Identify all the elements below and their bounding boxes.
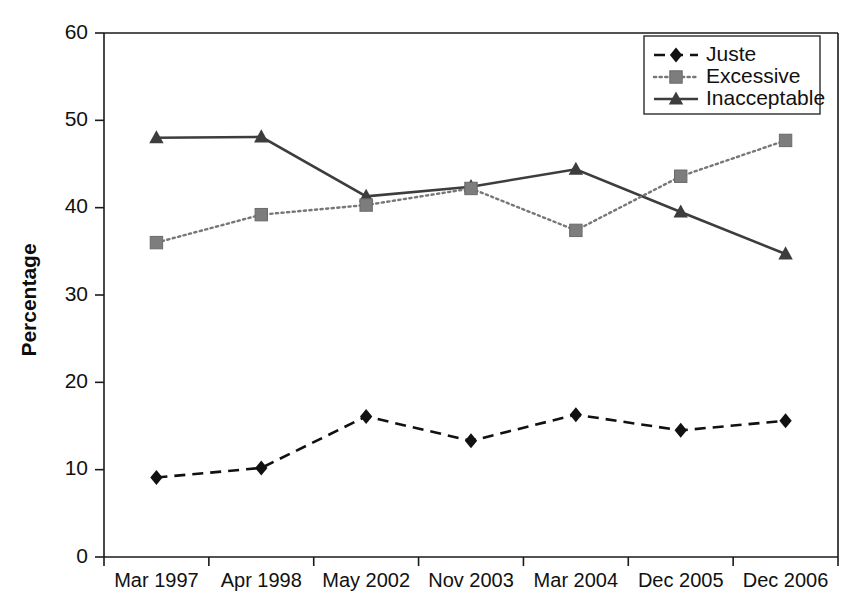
x-tick-label: May 2002 <box>322 569 410 591</box>
x-tick-label: Mar 2004 <box>534 569 619 591</box>
y-tick-label: 60 <box>65 20 88 43</box>
data-point-excessive <box>150 236 162 248</box>
x-tick-label: Dec 2006 <box>743 569 829 591</box>
chart-container: 0102030405060 Mar 1997Apr 1998May 2002No… <box>0 0 859 613</box>
y-tick-label: 0 <box>76 544 88 567</box>
legend-label-inacceptable: Inacceptable <box>706 86 825 109</box>
y-axis-title: Percentage <box>17 243 40 356</box>
data-point-excessive <box>255 208 267 220</box>
data-point-excessive <box>465 182 477 194</box>
line-chart: 0102030405060 Mar 1997Apr 1998May 2002No… <box>0 0 859 613</box>
chart-legend: JusteExcessiveInacceptable <box>644 36 825 114</box>
y-tick-label: 10 <box>65 456 88 479</box>
y-tick-label: 20 <box>65 369 88 392</box>
legend-label-excessive: Excessive <box>706 64 801 87</box>
y-tick-label: 30 <box>65 282 88 305</box>
data-point-excessive <box>675 170 687 182</box>
legend-swatch-marker <box>670 71 682 83</box>
y-tick-label: 40 <box>65 194 88 217</box>
x-tick-label: Apr 1998 <box>221 569 302 591</box>
data-point-excessive <box>570 224 582 236</box>
data-point-excessive <box>779 134 791 146</box>
data-point-excessive <box>360 199 372 211</box>
legend-label-juste: Juste <box>706 42 756 65</box>
x-tick-label: Nov 2003 <box>428 569 514 591</box>
x-tick-label: Mar 1997 <box>114 569 199 591</box>
x-tick-label: Dec 2005 <box>638 569 724 591</box>
y-tick-label: 50 <box>65 107 88 130</box>
